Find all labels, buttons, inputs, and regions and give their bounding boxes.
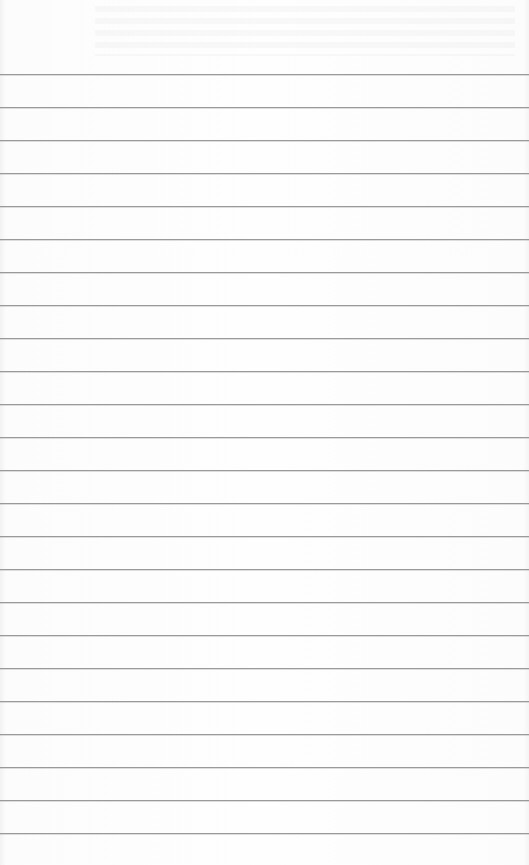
ruled-line (0, 272, 529, 273)
ruled-line (0, 635, 529, 636)
ruled-line (0, 74, 529, 75)
ruled-line (0, 437, 529, 438)
ruled-line (0, 668, 529, 669)
ruled-line (0, 239, 529, 240)
lined-paper (0, 0, 529, 865)
ruled-line (0, 305, 529, 306)
ruled-line (0, 734, 529, 735)
ruled-line (0, 470, 529, 471)
ruled-line (0, 107, 529, 108)
ruled-line (0, 503, 529, 504)
ruled-line (0, 701, 529, 702)
ruled-line (0, 767, 529, 768)
ruled-line (0, 206, 529, 207)
ruled-line (0, 173, 529, 174)
ruled-line (0, 404, 529, 405)
ruled-line (0, 800, 529, 801)
faint-bleedthrough (95, 6, 515, 56)
ruled-line (0, 371, 529, 372)
ruled-line (0, 569, 529, 570)
ruled-line (0, 140, 529, 141)
ruled-line (0, 536, 529, 537)
ruled-line (0, 338, 529, 339)
ruled-line (0, 602, 529, 603)
ruled-line (0, 833, 529, 834)
